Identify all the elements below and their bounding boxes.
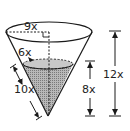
label-water-height: 8x — [82, 83, 96, 96]
label-water-radius: 6x — [18, 46, 32, 59]
label-cone-height: 12x — [103, 68, 124, 81]
cone-diagram: 9x 6x 10x 8x 12x — [0, 0, 130, 131]
label-top-radius: 9x — [24, 20, 38, 33]
right-angle-mark — [43, 32, 49, 37]
label-slant: 10x — [14, 83, 35, 96]
